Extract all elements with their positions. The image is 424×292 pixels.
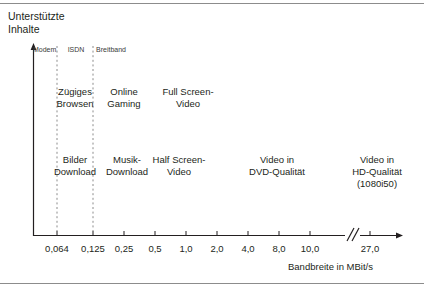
axis-break-icon <box>347 228 359 241</box>
technology-divider-lines <box>57 46 93 234</box>
y-axis-title: Unterstützte Inhalte <box>8 10 98 36</box>
x-tick-label-4: 1,0 <box>170 243 202 254</box>
x-tick-label-7: 8,0 <box>263 243 295 254</box>
x-tick-label-8: 10,0 <box>292 243 328 254</box>
x-axis <box>33 228 403 241</box>
content-label-full-screen-video: Full Screen- Video <box>145 86 231 110</box>
technology-label-isdn: ISDN <box>60 45 92 54</box>
x-tick-label-0: 0,064 <box>37 243 77 254</box>
x-axis-title: Bandbreite in MBit/s <box>288 261 412 273</box>
y-axis <box>31 43 37 236</box>
x-tick-label-3: 0,5 <box>139 243 171 254</box>
x-tick-label-6: 4,0 <box>232 243 264 254</box>
x-tick-label-2: 0,25 <box>106 243 142 254</box>
content-label-half-screen-video: Half Screen- Video <box>137 154 221 178</box>
figure-container: Unterstützte Inhalte Modem ISDN Breitban… <box>0 0 424 292</box>
content-label-video-hd-qualitaet: Video in HD-Qualität (1080i50) <box>330 154 424 190</box>
content-label-video-dvd-qualitaet: Video in DVD-Qualität <box>229 154 325 178</box>
technology-label-breitband: Breitband <box>96 45 142 54</box>
x-tick-label-9: 27,0 <box>352 243 388 254</box>
x-tick-label-5: 2,0 <box>201 243 233 254</box>
